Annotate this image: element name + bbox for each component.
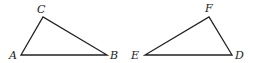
triangles-diagram: A B C E D F — [0, 0, 253, 63]
vertex-label-d: D — [234, 49, 244, 62]
vertex-label-f: F — [204, 2, 213, 15]
vertex-label-b: B — [109, 49, 118, 62]
triangle-abc — [21, 17, 107, 55]
vertex-label-e: E — [130, 49, 139, 62]
triangle-def — [145, 17, 232, 55]
vertex-label-c: C — [37, 3, 46, 16]
vertex-label-a: A — [8, 49, 17, 62]
